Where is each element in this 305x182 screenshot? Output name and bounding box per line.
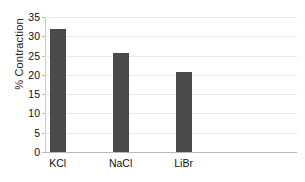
gridline — [45, 94, 297, 95]
y-tick-label: 15 — [20, 89, 40, 100]
x-tick-label: LiBr — [154, 158, 214, 169]
gridline — [45, 133, 297, 134]
y-tick-label: 35 — [20, 12, 40, 23]
y-tick-label: 0 — [20, 147, 40, 158]
bar-chart: % Contraction 05101520253035 KClNaClLiBr — [0, 0, 305, 182]
x-tick-label: NaCl — [91, 158, 151, 169]
y-tick-label: 5 — [20, 128, 40, 139]
gridline — [45, 113, 297, 114]
y-tick-label: 20 — [20, 70, 40, 81]
gridline — [45, 17, 297, 18]
bar-LiBr — [176, 72, 192, 152]
bar-KCl — [50, 29, 66, 152]
gridline — [45, 36, 297, 37]
y-tick-label: 25 — [20, 51, 40, 62]
x-tick-label: KCl — [28, 158, 88, 169]
bar-NaCl — [113, 53, 129, 152]
plot-area — [45, 17, 297, 152]
x-axis-baseline — [45, 152, 297, 153]
gridline — [45, 75, 297, 76]
y-tick-label: 30 — [20, 31, 40, 42]
y-tick-label: 10 — [20, 108, 40, 119]
gridline — [45, 56, 297, 57]
